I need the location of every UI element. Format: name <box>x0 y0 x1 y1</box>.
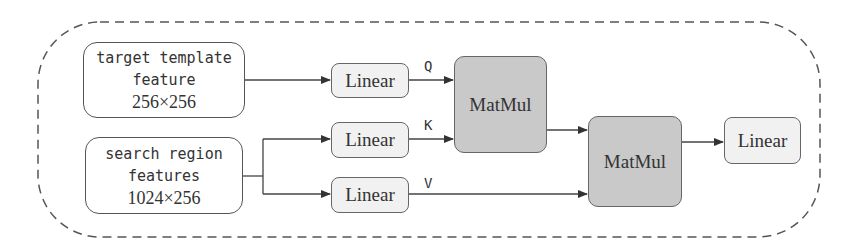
search-label-line1: search region <box>105 143 222 165</box>
linear-v-node: Linear <box>331 177 409 213</box>
k-edge-label: K <box>424 117 432 133</box>
matmul-2-node: MatMul <box>588 116 682 207</box>
matmul-1-label: MatMul <box>469 94 531 116</box>
target-template-feature-box: target template feature 256×256 <box>83 42 245 118</box>
matmul-1-node: MatMul <box>454 56 547 153</box>
template-dims: 256×256 <box>132 91 196 113</box>
template-label-line1: target template <box>96 47 231 69</box>
template-label-line2: feature <box>132 69 195 91</box>
linear-q-node: Linear <box>331 63 409 98</box>
linear-q-label: Linear <box>345 70 395 92</box>
search-dims: 1024×256 <box>127 187 200 209</box>
cross-attention-diagram: target template feature 256×256 search r… <box>0 0 859 251</box>
matmul-2-label: MatMul <box>604 151 666 173</box>
linear-out-label: Linear <box>738 130 788 152</box>
linear-k-node: Linear <box>331 122 409 158</box>
linear-v-label: Linear <box>345 184 395 206</box>
linear-out-node: Linear <box>724 117 801 164</box>
v-edge-label: V <box>424 175 432 191</box>
linear-k-label: Linear <box>345 129 395 151</box>
search-label-line2: features <box>128 165 200 187</box>
search-region-features-box: search region features 1024×256 <box>85 137 243 214</box>
q-edge-label: Q <box>424 58 432 74</box>
